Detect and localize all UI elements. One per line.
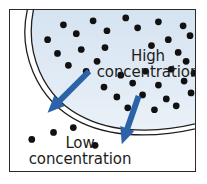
particle <box>155 18 162 25</box>
diagram-frame: High concentration Low concentration <box>9 9 196 172</box>
particle <box>101 84 108 91</box>
high-concentration-label-line1: High <box>96 48 196 64</box>
particle <box>163 96 170 103</box>
particle <box>187 32 194 39</box>
high-concentration-label: High concentration <box>96 48 196 80</box>
low-concentration-label-line2: concentration <box>16 151 144 167</box>
particle <box>104 27 111 34</box>
particle <box>122 15 129 22</box>
particle <box>173 102 180 109</box>
low-concentration-label-line1: Low <box>16 135 144 151</box>
particle <box>124 104 131 111</box>
particle <box>60 21 67 28</box>
low-concentration-label: Low concentration <box>16 135 144 167</box>
particle <box>73 30 80 37</box>
particle <box>90 18 97 25</box>
particle <box>134 24 141 31</box>
particle <box>70 124 77 131</box>
particle <box>155 82 162 89</box>
diffusion-diagram: High concentration Low concentration <box>0 0 207 184</box>
particle <box>180 22 187 29</box>
high-concentration-label-line2: concentration <box>96 64 196 80</box>
particle <box>188 90 195 97</box>
particle <box>113 94 120 101</box>
particle <box>151 106 158 113</box>
particle <box>54 50 61 57</box>
particle <box>65 62 72 69</box>
particle <box>44 36 51 43</box>
particle <box>78 46 85 53</box>
particle <box>165 36 172 43</box>
